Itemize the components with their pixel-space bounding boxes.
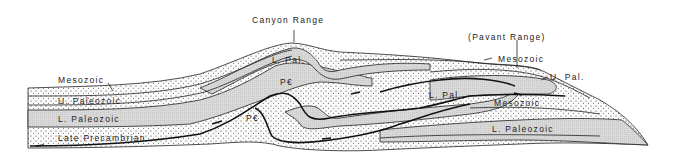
pavant-range-label: (Pavant Range) — [468, 32, 546, 42]
canyon-range-label: Canyon Range — [252, 15, 324, 25]
precambrian-lower-label: P€ — [246, 113, 259, 123]
mesozoic-pavant-mid-label: Mesozoic — [494, 98, 540, 108]
mesozoic-pavant-top-label: Mesozoic — [498, 54, 544, 64]
lower-paleozoic-east-label: L. Paleozoic — [492, 124, 554, 134]
fault-arrow-icon — [322, 138, 331, 139]
lower-pal-center-label: L. Pal. — [429, 90, 462, 100]
upper-pal-pavant-label: U. Pal. — [550, 72, 585, 82]
late-precambrian-west-label: Late Precambrian — [58, 133, 146, 143]
upper-paleozoic-west-label: U. Paleozoic — [58, 96, 121, 106]
lower-pal-canyon-label: L. Pal. — [272, 55, 305, 65]
precambrian-upper-label: P€ — [280, 77, 293, 87]
mesozoic-west-label: Mesozoic — [58, 75, 104, 85]
lower-paleozoic-west-label: L. Paleozoic — [58, 114, 120, 124]
mesozoic-pavant-leader — [484, 58, 492, 60]
fault-arrow-icon — [36, 145, 44, 146]
geologic-cross-section: Canyon Range (Pavant Range) Mesozoic U. … — [0, 0, 676, 164]
